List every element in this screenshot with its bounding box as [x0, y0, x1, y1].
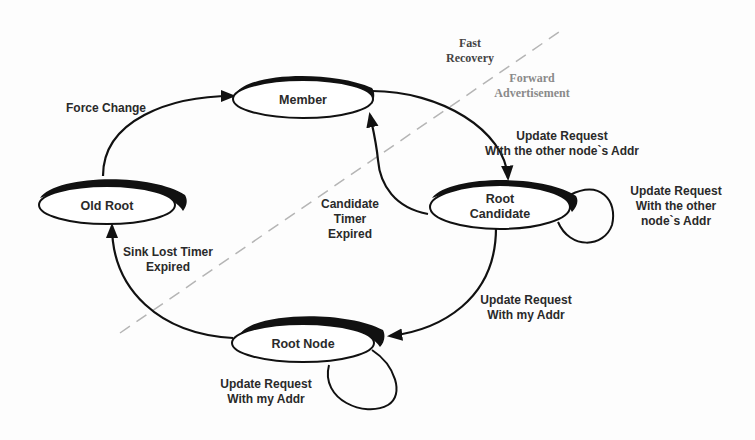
state-old-root-label: Old Root	[81, 199, 135, 213]
state-root-candidate-label-line1: Root	[486, 192, 515, 206]
forward-advertisement-label-line1: Forward	[509, 71, 555, 85]
label-root-node-self-line2: With my Addr	[227, 392, 305, 406]
state-diagram: Fast Recovery Forward Advertisement Memb…	[0, 0, 755, 440]
label-candidate-to-root-node-line2: With my Addr	[487, 308, 565, 322]
state-root-node-label: Root Node	[271, 337, 334, 351]
label-root-node-self-line1: Update Request	[220, 377, 311, 391]
transition-candidate-to-root-node-arrow	[390, 228, 496, 336]
label-candidate-timer-line2: Timer	[334, 212, 367, 226]
region-forward-advertisement: Forward Advertisement	[494, 71, 569, 100]
state-root-candidate-label-line2: Candidate	[470, 207, 530, 221]
state-old-root: Old Root	[39, 179, 187, 224]
label-candidate-timer-line3: Expired	[328, 227, 372, 241]
state-root-node: Root Node	[232, 316, 384, 362]
label-force-change: Force Change	[66, 101, 146, 115]
region-fast-recovery: Fast Recovery	[446, 36, 494, 65]
fast-recovery-label-line1: Fast	[459, 36, 481, 50]
label-sink-lost-timer-line2: Expired	[146, 260, 190, 274]
label-sink-lost-timer-line1: Sink Lost Timer	[123, 245, 213, 259]
label-candidate-timer-line1: Candidate	[321, 197, 379, 211]
fast-recovery-label-line2: Recovery	[446, 51, 494, 65]
transition-member-to-candidate-arrow	[372, 91, 508, 178]
label-candidate-self-line2: With the other	[636, 199, 717, 213]
transition-sink-lost-timer-arrow	[112, 226, 233, 338]
label-candidate-self-line1: Update Request	[630, 184, 721, 198]
label-member-to-candidate-line1: Update Request	[516, 129, 607, 143]
state-root-candidate: Root Candidate	[430, 180, 577, 229]
label-candidate-to-root-node-line1: Update Request	[480, 293, 571, 307]
label-candidate-self-line3: node`s Addr	[641, 214, 712, 228]
label-member-to-candidate-line2: With the other node`s Addr	[485, 144, 639, 158]
state-member: Member	[233, 76, 374, 118]
state-member-label: Member	[279, 93, 327, 107]
forward-advertisement-label-line2: Advertisement	[494, 86, 569, 100]
